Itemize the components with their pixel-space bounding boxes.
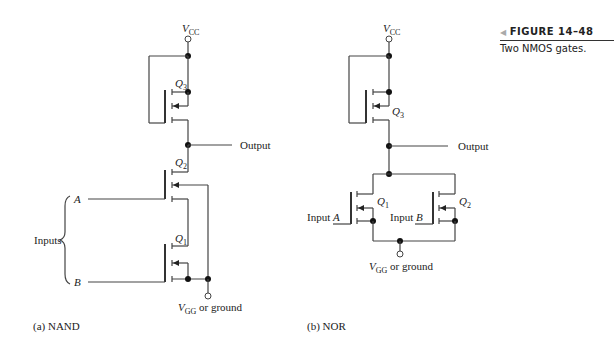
nand-ground-terminal [205, 293, 211, 299]
nand-input-b-label: B [74, 276, 81, 288]
nand-q1-label: Q1 [175, 232, 187, 247]
nand-circuit: VCC Q3 Output [33, 22, 271, 333]
nor-input-b-label: Input B [390, 211, 423, 223]
nand-output-label: Output [240, 139, 271, 151]
nand-inputs-label: Inputs [34, 234, 62, 246]
nand-vcc-label: VCC [182, 22, 199, 37]
nand-q1-transistor: Q1 [165, 232, 208, 282]
nor-q3-transistor: Q3 [349, 56, 404, 174]
triangle-marker-icon: ◀ [500, 28, 507, 37]
nand-q3-transistor: Q3 [149, 56, 191, 145]
nor-caption: (b) NOR [307, 320, 346, 333]
nand-vcc-terminal [185, 36, 191, 42]
nand-ground-label: VGG or ground [178, 301, 243, 316]
nand-caption: (a) NAND [33, 320, 80, 333]
inputs-brace [60, 196, 70, 284]
nor-output-label: Output [458, 140, 489, 152]
figure-rule [500, 40, 614, 41]
nor-q2-transistor: Q2 [415, 174, 471, 241]
nand-q3-label: Q3 [175, 77, 187, 92]
nor-q2-label: Q2 [459, 195, 471, 210]
nor-q1-label: Q1 [377, 195, 389, 210]
nand-q2-label: Q2 [175, 156, 187, 171]
nor-input-a-label: Input A [307, 211, 340, 223]
figure-number: ◀FIGURE 14–48 [500, 26, 593, 37]
nand-input-a-label: A [73, 193, 81, 205]
figure-description: Two NMOS gates. [500, 43, 586, 54]
nor-q1-transistor: Q1 [333, 174, 389, 241]
nor-ground-terminal [397, 251, 403, 257]
nor-ground-label: VGG or ground [369, 260, 434, 275]
nor-q3-label: Q3 [392, 105, 404, 120]
nor-vcc-label: VCC [383, 22, 400, 37]
nor-vcc-terminal [386, 36, 392, 42]
nor-circuit: VCC Q3 Output [307, 22, 489, 333]
nand-q2-transistor: Q2 [165, 145, 208, 246]
